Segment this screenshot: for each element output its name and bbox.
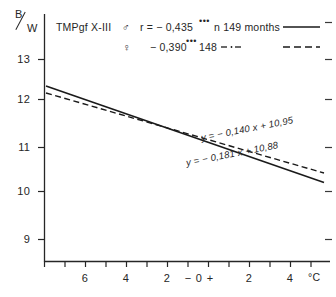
- legend-male-correlation: r = − 0,435: [140, 21, 193, 33]
- legend-group-label: TMPgf X-III: [56, 21, 111, 33]
- x-tick-label-4-left: 4: [116, 272, 136, 284]
- legend-male-sample-size: n 149 months: [214, 21, 280, 33]
- x-tick-label-4-right: 4: [280, 272, 300, 284]
- right-edge-ticks: [325, 23, 332, 240]
- x-tick-label-6: 6: [75, 272, 95, 284]
- legend-sample-dashdot: [221, 46, 241, 48]
- y-axis-ticks: [38, 60, 45, 240]
- regression-line-male: [46, 86, 324, 183]
- y-tick-label-10: 10: [10, 185, 30, 197]
- y-tick-label-12: 12: [10, 93, 30, 105]
- x-axis-unit-label: °C: [308, 271, 320, 283]
- legend-female-significance-stars: •••: [186, 36, 197, 46]
- x-tick-label-zero-plus: +: [204, 272, 216, 284]
- x-tick-label-2-left: 2: [157, 272, 177, 284]
- x-tick-label-2-right: 2: [239, 272, 259, 284]
- x-axis-ticks: [45, 262, 312, 268]
- legend-female-sample-size: 148: [199, 41, 217, 53]
- legend-female-symbol: ♀: [123, 41, 131, 53]
- y-tick-label-9: 9: [10, 233, 30, 245]
- legend-female-correlation: − 0,390: [150, 41, 187, 53]
- legend-male-significance-stars: •••: [199, 16, 210, 26]
- chart-figure: B W: [0, 0, 336, 297]
- y-tick-label-11: 11: [10, 141, 30, 153]
- legend-male-symbol: ♂: [122, 21, 130, 33]
- y-tick-label-13: 13: [10, 53, 30, 65]
